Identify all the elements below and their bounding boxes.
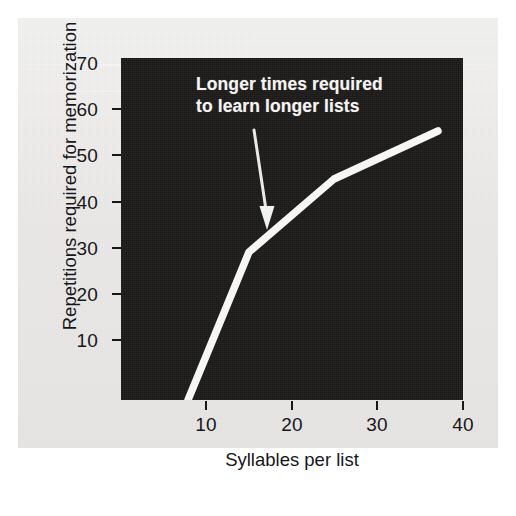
down-arrow-icon [254, 130, 275, 230]
y-tick-label-50: 50 [56, 145, 98, 167]
y-tick-mark-60 [112, 108, 121, 110]
annotation-line-2: to learn longer lists [196, 96, 360, 117]
x-tick-label-40: 40 [439, 414, 487, 436]
x-tick-mark-40 [462, 401, 464, 410]
figure-page: Repetitions required for memorization 70… [0, 0, 516, 516]
y-tick-mark-30 [112, 247, 121, 249]
y-tick-label-60: 60 [56, 99, 98, 121]
x-tick-label-20: 20 [268, 414, 316, 436]
x-axis-title: Syllables per list [121, 449, 463, 471]
x-tick-mark-10 [205, 401, 207, 410]
y-tick-mark-40 [112, 201, 121, 203]
y-tick-label-10: 10 [56, 330, 98, 352]
memorization-curve [188, 131, 438, 400]
y-tick-mark-10 [112, 339, 121, 341]
y-tick-label-20: 20 [56, 284, 98, 306]
y-tick-label-40: 40 [56, 192, 98, 214]
x-tick-label-10: 10 [182, 414, 230, 436]
plot-area: Longer times required to learn longer li… [121, 58, 463, 400]
y-tick-label-30: 30 [56, 238, 98, 260]
x-tick-mark-30 [376, 401, 378, 410]
x-tick-label-30: 30 [353, 414, 401, 436]
y-tick-label-70: 70 [56, 53, 98, 75]
y-tick-mark-50 [112, 154, 121, 156]
y-tick-mark-20 [112, 293, 121, 295]
annotation-line-1: Longer times required [196, 74, 383, 95]
x-tick-mark-20 [291, 401, 293, 410]
